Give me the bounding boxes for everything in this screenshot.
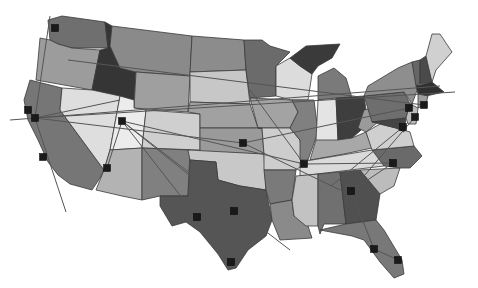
state-ar — [264, 170, 296, 204]
city-marker-icon[interactable] — [406, 105, 413, 112]
city-marker-icon[interactable] — [348, 188, 355, 195]
city-marker-icon[interactable] — [228, 259, 235, 266]
city-marker-icon[interactable] — [32, 115, 39, 122]
city-marker-icon[interactable] — [119, 118, 126, 125]
city-marker-icon[interactable] — [390, 160, 397, 167]
state-fl — [320, 220, 404, 278]
city-marker-icon[interactable] — [395, 257, 402, 264]
city-marker-icon[interactable] — [421, 102, 428, 109]
city-marker-icon[interactable] — [25, 107, 32, 114]
city-marker-icon[interactable] — [231, 208, 238, 215]
city-marker-icon[interactable] — [104, 165, 111, 172]
city-marker-icon[interactable] — [194, 214, 201, 221]
state-mt — [110, 26, 192, 76]
city-marker-icon[interactable] — [52, 25, 59, 32]
city-marker-icon[interactable] — [371, 246, 378, 253]
city-marker-icon[interactable] — [412, 114, 419, 121]
city-marker-icon[interactable] — [40, 154, 47, 161]
map-canvas — [0, 0, 478, 288]
us-route-map — [0, 0, 478, 288]
states-layer — [24, 16, 452, 278]
city-marker-icon[interactable] — [240, 140, 247, 147]
city-marker-icon[interactable] — [400, 124, 407, 131]
city-marker-icon[interactable] — [301, 161, 308, 168]
state-sd — [190, 70, 250, 104]
state-nd — [190, 36, 246, 72]
